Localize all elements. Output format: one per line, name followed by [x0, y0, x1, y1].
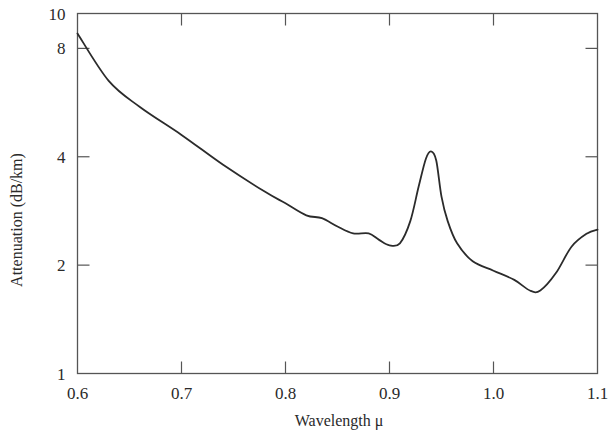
x-tick-label: 0.6: [67, 384, 88, 403]
y-tick-label: 10: [49, 5, 66, 24]
x-tick-label: 0.7: [171, 384, 193, 403]
y-tick-label: 1: [57, 365, 66, 384]
y-axis-label: Attenuation (dB/km): [8, 153, 26, 287]
x-tick-label: 1.0: [483, 384, 504, 403]
x-tick-label: 0.9: [379, 384, 400, 403]
axis-ticks: [78, 14, 598, 374]
attenuation-chart: 0.60.70.80.91.01.1 124810 Wavelength μ A…: [0, 0, 611, 434]
x-axis-label: Wavelength μ: [295, 412, 384, 430]
y-tick-label: 4: [57, 148, 66, 167]
plot-frame: [78, 14, 598, 374]
attenuation-curve: [78, 34, 598, 293]
x-tick-label: 0.8: [275, 384, 296, 403]
y-tick-labels: 124810: [49, 5, 67, 384]
y-tick-label: 8: [57, 39, 66, 58]
x-tick-labels: 0.60.70.80.91.01.1: [67, 384, 608, 403]
x-tick-label: 1.1: [587, 384, 608, 403]
y-tick-label: 2: [57, 256, 66, 275]
